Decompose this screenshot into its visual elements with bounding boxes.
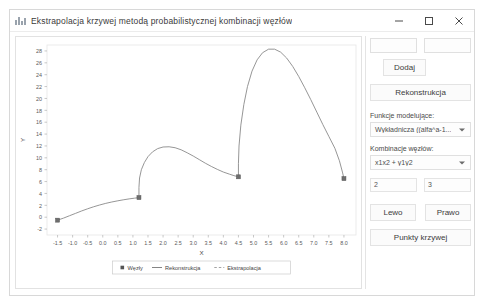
model-function-value: Wykładnicza ((alfa^a-1...: [371, 126, 451, 133]
close-icon[interactable]: [444, 10, 474, 31]
controls-panel: Dodaj Rekonstrukcja Funkcje modelujące: …: [370, 38, 474, 288]
chart-panel: -20246810121416182022242628-1.5-1.0-0.50…: [15, 36, 362, 289]
application-window: Ekstrapolacja krzywej metodą probabilist…: [0, 0, 486, 306]
x-coordinate-input[interactable]: [370, 38, 417, 53]
chevron-down-icon: [459, 161, 465, 164]
svg-text:6.5: 6.5: [295, 240, 303, 246]
svg-text:Y: Y: [19, 138, 26, 142]
svg-text:28: 28: [36, 48, 42, 54]
parameter-a-input[interactable]: 2: [370, 178, 417, 192]
svg-text:12: 12: [36, 143, 42, 149]
extrapolation-plot: -20246810121416182022242628-1.5-1.0-0.50…: [16, 37, 361, 288]
svg-text:Węzły: Węzły: [128, 265, 143, 271]
maximize-icon[interactable]: [414, 10, 444, 31]
parameter-b-input[interactable]: 3: [424, 178, 471, 192]
window-title: Ekstrapolacja krzywej metodą probabilist…: [31, 16, 292, 26]
svg-text:24: 24: [36, 72, 42, 78]
add-node-button[interactable]: Dodaj: [383, 59, 426, 76]
svg-text:10: 10: [36, 155, 42, 161]
svg-text:3.5: 3.5: [205, 240, 213, 246]
svg-text:-2: -2: [37, 226, 42, 232]
svg-text:Rekonstrukcja: Rekonstrukcja: [165, 265, 201, 271]
svg-text:1.0: 1.0: [129, 240, 137, 246]
svg-text:7.0: 7.0: [310, 240, 318, 246]
svg-text:2.0: 2.0: [159, 240, 167, 246]
panel-divider: [365, 36, 366, 289]
window-controls: [384, 10, 474, 31]
svg-text:4.0: 4.0: [220, 240, 228, 246]
right-button[interactable]: Prawo: [425, 204, 471, 221]
svg-text:0.5: 0.5: [114, 240, 122, 246]
svg-text:-0.5: -0.5: [83, 240, 92, 246]
svg-text:3.0: 3.0: [189, 240, 197, 246]
svg-text:2.5: 2.5: [174, 240, 182, 246]
svg-text:6.0: 6.0: [280, 240, 288, 246]
chevron-down-icon: [459, 128, 465, 131]
svg-text:0.0: 0.0: [99, 240, 107, 246]
svg-text:16: 16: [36, 119, 42, 125]
window-frame: Ekstrapolacja krzywej metodą probabilist…: [9, 9, 475, 296]
y-coordinate-input[interactable]: [424, 38, 471, 53]
svg-text:0: 0: [39, 214, 42, 220]
svg-text:1.5: 1.5: [144, 240, 152, 246]
svg-text:X: X: [199, 249, 203, 256]
svg-text:14: 14: [36, 131, 42, 137]
minimize-icon[interactable]: [384, 10, 414, 31]
svg-text:8.0: 8.0: [340, 240, 348, 246]
model-function-select[interactable]: Wykładnicza ((alfa^a-1...: [370, 122, 471, 137]
svg-text:2: 2: [39, 203, 42, 209]
svg-text:22: 22: [36, 84, 42, 90]
svg-text:7.5: 7.5: [325, 240, 333, 246]
node-combination-select[interactable]: x1x2 + y1y2: [370, 155, 471, 170]
parameter-inputs: 2 3: [370, 178, 474, 192]
svg-text:Ekstrapolacja: Ekstrapolacja: [227, 265, 261, 271]
svg-text:20: 20: [36, 96, 42, 102]
svg-text:6: 6: [39, 179, 42, 185]
direction-buttons: Lewo Prawo: [370, 204, 474, 221]
left-button[interactable]: Lewo: [370, 204, 416, 221]
svg-text:-1.0: -1.0: [68, 240, 77, 246]
node-combination-value: x1x2 + y1y2: [371, 159, 413, 166]
reconstruct-button[interactable]: Rekonstrukcja: [370, 84, 471, 101]
svg-text:4.5: 4.5: [235, 240, 243, 246]
chart-bars-icon: [15, 15, 26, 26]
svg-text:-1.5: -1.5: [53, 240, 62, 246]
model-functions-label: Funkcje modelujące:: [370, 112, 474, 119]
svg-text:5.0: 5.0: [250, 240, 258, 246]
svg-text:18: 18: [36, 108, 42, 114]
node-combination-label: Kombinacje węzłów:: [370, 145, 474, 152]
coordinate-inputs: [370, 38, 474, 53]
svg-text:26: 26: [36, 60, 42, 66]
title-bar: Ekstrapolacja krzywej metodą probabilist…: [10, 10, 474, 32]
curve-points-button[interactable]: Punkty krzywej: [370, 229, 471, 246]
svg-text:5.5: 5.5: [265, 240, 273, 246]
svg-text:8: 8: [39, 167, 42, 173]
svg-text:4: 4: [39, 191, 42, 197]
